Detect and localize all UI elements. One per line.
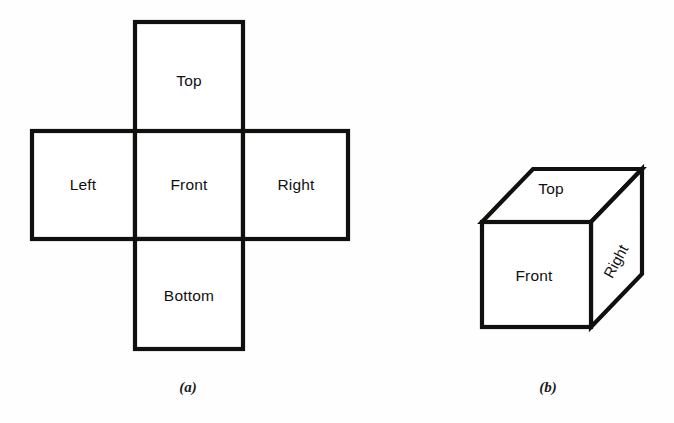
net-label-right: Right (277, 176, 315, 193)
net-label-left: Left (70, 176, 97, 193)
net-label-top: Top (176, 72, 202, 89)
cube-label-top: Top (538, 180, 564, 197)
cube-label-front: Front (515, 267, 553, 284)
panel-caption-b: (b) (539, 379, 557, 396)
panel-caption-a: (a) (179, 379, 197, 396)
net-label-bottom: Bottom (164, 287, 214, 304)
figure-root: Top Left Front Right Bottom (a) Top Fron… (0, 0, 674, 423)
net-label-front: Front (170, 176, 208, 193)
figure-canvas: Top Left Front Right Bottom (a) Top Fron… (0, 0, 674, 423)
